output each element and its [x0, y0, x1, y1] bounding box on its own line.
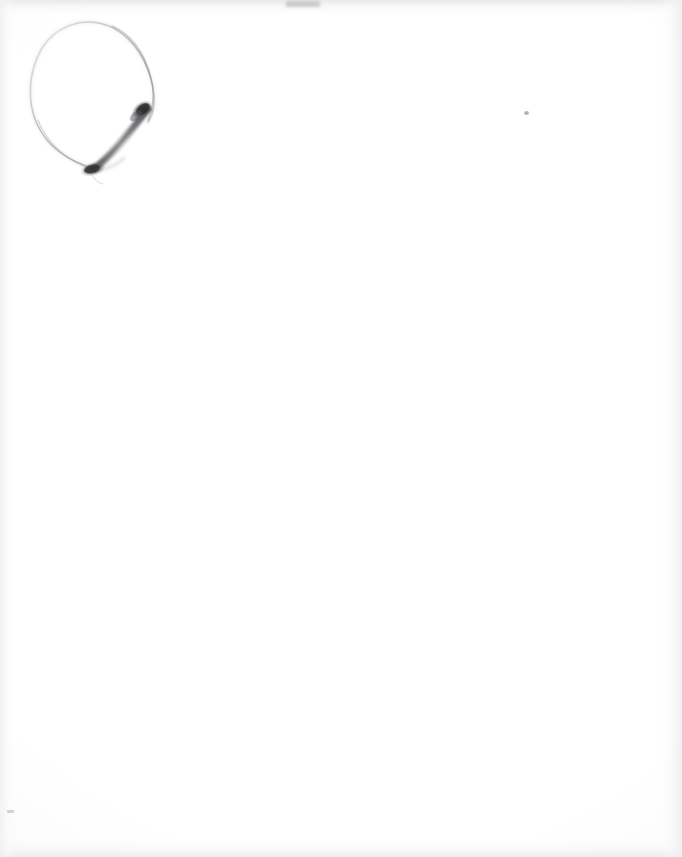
paper-base-layer	[0, 0, 682, 857]
scanned-page: A near-blank white scanned sheet with a …	[0, 0, 682, 857]
